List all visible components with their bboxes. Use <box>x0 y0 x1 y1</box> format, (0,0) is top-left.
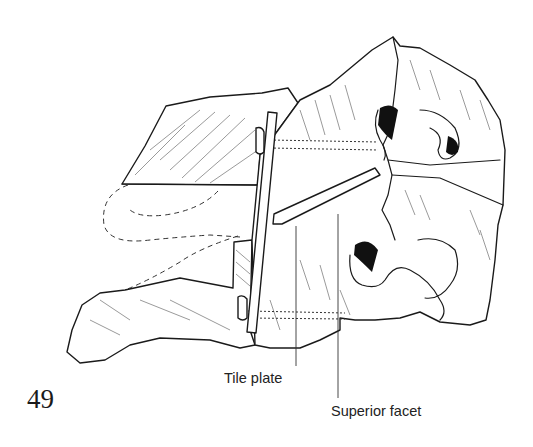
tile-plate-label: Tile plate <box>224 370 282 386</box>
superior-facet-label: Superior facet <box>331 403 421 419</box>
vertebral-block <box>252 37 505 348</box>
dashed-outline <box>104 185 241 290</box>
lower-spinous-process <box>67 240 255 363</box>
figure-number: 49 <box>27 384 54 415</box>
